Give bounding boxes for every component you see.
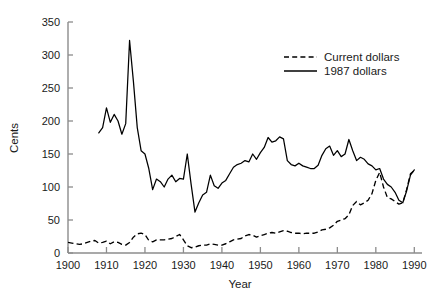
legend-label-current-dollars: Current dollars: [324, 51, 400, 63]
x-tick-group: 1900191019201930194019501960197019801990: [56, 247, 427, 271]
y-tick-label: 50: [48, 214, 60, 226]
x-tick-label: 1940: [210, 259, 234, 271]
y-axis: 050100150200250300350 Cents: [8, 16, 73, 259]
y-tick-label: 350: [42, 16, 60, 28]
series-line-current-dollars: [68, 171, 414, 248]
line-chart: 050100150200250300350 Cents 190019101920…: [0, 0, 432, 296]
y-axis-title: Cents: [8, 123, 20, 153]
x-tick-label: 1960: [287, 259, 311, 271]
y-tick-label: 200: [42, 115, 60, 127]
x-tick-label: 1910: [94, 259, 118, 271]
x-axis: 1900191019201930194019501960197019801990…: [56, 247, 427, 290]
x-tick-label: 1900: [56, 259, 80, 271]
y-tick-label: 150: [42, 148, 60, 160]
x-tick-label: 1980: [364, 259, 388, 271]
chart-legend: Current dollars 1987 dollars: [284, 51, 400, 77]
x-tick-label: 1920: [133, 259, 157, 271]
x-tick-label: 1990: [402, 259, 426, 271]
x-tick-label: 1930: [171, 259, 195, 271]
chart-figure: 050100150200250300350 Cents 190019101920…: [0, 0, 432, 296]
y-tick-label: 100: [42, 181, 60, 193]
y-tick-label: 300: [42, 49, 60, 61]
x-axis-title: Year: [228, 278, 251, 290]
y-tick-label: 250: [42, 82, 60, 94]
y-tick-label: 0: [54, 247, 60, 259]
legend-label-1987-dollars: 1987 dollars: [324, 65, 387, 77]
x-tick-label: 1970: [325, 259, 349, 271]
x-tick-label: 1950: [248, 259, 272, 271]
